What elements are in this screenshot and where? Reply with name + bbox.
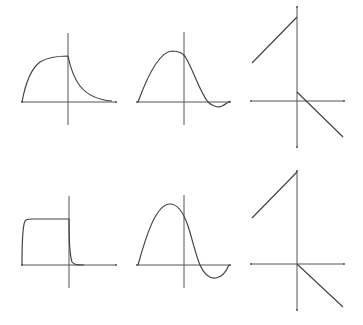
function-plots-diagram: [0, 0, 363, 325]
curve: [22, 56, 112, 102]
axis-end-marker: [296, 170, 298, 172]
panel-bottom-left: [21, 196, 117, 288]
panel-bottom-right: [250, 170, 345, 311]
axis-end-marker: [296, 6, 298, 8]
axis-end-marker: [296, 309, 298, 311]
panel-bottom-middle: [136, 195, 231, 288]
axis-end-marker: [250, 263, 252, 265]
panel-top-left: [21, 33, 117, 125]
axis-end-marker: [250, 100, 252, 102]
axis-end-marker: [296, 146, 298, 148]
rising-segment: [252, 17, 297, 63]
rising-segment: [252, 172, 297, 218]
falling-segment: [297, 92, 343, 137]
axis-end-marker: [115, 264, 117, 266]
curve: [22, 219, 84, 265]
axis-end-marker: [115, 101, 117, 103]
panel-top-middle: [136, 32, 231, 125]
axis-end-marker: [343, 263, 345, 265]
axis-end-marker: [343, 100, 345, 102]
panel-top-right: [250, 6, 345, 148]
falling-segment: [297, 264, 343, 307]
